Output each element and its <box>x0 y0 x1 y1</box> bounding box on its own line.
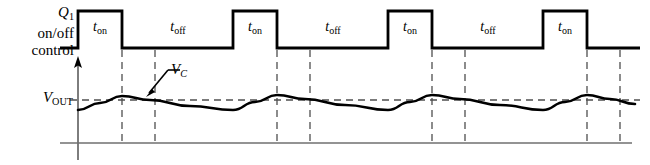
q1-subscript: 1 <box>69 11 74 22</box>
vc-subscript: C <box>180 68 187 79</box>
control-label-line3: control <box>0 42 74 59</box>
timing-label-off-3: toff <box>325 19 341 36</box>
vout-symbol: V <box>43 89 52 105</box>
lower-plot-axes <box>60 56 632 160</box>
vc-ripple-wave <box>78 95 635 110</box>
timing-label-on-0: ton <box>93 19 107 36</box>
timing-label-on-6: ton <box>558 19 572 36</box>
timing-labels: tontofftontofftontoffton <box>93 19 572 36</box>
dashed-guide-lines <box>122 50 620 145</box>
control-label-line1: Q1 <box>0 4 74 25</box>
waveform-canvas: tontofftontofftontoffton <box>0 0 650 165</box>
vout-subscript: OUT <box>52 96 73 107</box>
timing-label-on-2: ton <box>248 19 262 36</box>
timing-label-off-1: toff <box>170 19 186 36</box>
timing-label-off-5: toff <box>480 19 496 36</box>
control-square-wave <box>60 11 640 48</box>
vout-label: VOUT <box>0 90 73 109</box>
control-label-line2: on/off <box>0 25 74 42</box>
control-label: Q1 on/off control <box>0 4 74 59</box>
vc-symbol: V <box>171 61 180 77</box>
timing-label-on-4: ton <box>403 19 417 36</box>
waveform-figure: tontofftontofftontoffton Q1 on/off contr… <box>0 0 650 165</box>
vc-label: VC <box>171 61 187 79</box>
q1-symbol: Q <box>58 4 69 20</box>
